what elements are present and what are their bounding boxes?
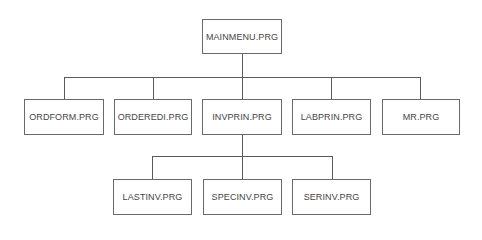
node-labprin: LABPRIN.PRG (292, 99, 371, 135)
node-label: SPECINV.PRG (212, 192, 274, 202)
node-label: MR.PRG (403, 112, 440, 122)
node-label: SERINV.PRG (304, 192, 360, 202)
connector-mr (420, 77, 421, 100)
node-label: LASTINV.PRG (123, 192, 183, 202)
node-mr: MR.PRG (382, 99, 460, 135)
connector-lastinv (152, 156, 153, 180)
node-label: MAINMENU.PRG (206, 32, 278, 42)
connector-invprin-down (242, 134, 243, 180)
connector-ordform (64, 77, 65, 100)
node-label: INVPRIN.PRG (212, 112, 272, 122)
node-specinv: SPECINV.PRG (203, 179, 282, 215)
connector-level2-bus (152, 156, 333, 157)
connector-serinv (332, 156, 333, 180)
node-lastinv: LASTINV.PRG (113, 179, 192, 215)
node-label: ORDEREDI.PRG (118, 112, 189, 122)
connector-labprin (331, 77, 332, 100)
node-serinv: SERINV.PRG (292, 179, 371, 215)
node-mainmenu: MAINMENU.PRG (202, 19, 282, 54)
node-label: LABPRIN.PRG (301, 112, 363, 122)
connector-root-down (242, 53, 243, 77)
node-orderedi: ORDEREDI.PRG (114, 99, 192, 135)
connector-orderedi (153, 77, 154, 100)
node-ordform: ORDFORM.PRG (24, 99, 104, 135)
node-label: ORDFORM.PRG (29, 112, 99, 122)
connector-invprin (242, 77, 243, 100)
node-invprin: INVPRIN.PRG (202, 99, 282, 135)
